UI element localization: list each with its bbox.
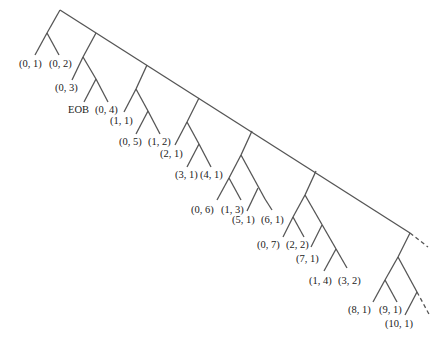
leaf-label-0-3: (0, 3) bbox=[55, 82, 78, 94]
leaf-label-9-1: (9, 1) bbox=[379, 304, 402, 316]
leaf-label-6-1: (6, 1) bbox=[261, 214, 284, 226]
leaf-label-2-2: (2, 2) bbox=[286, 239, 309, 251]
leaf-label-8-1: (8, 1) bbox=[348, 304, 371, 316]
leaf-label-1-1: (1, 1) bbox=[110, 115, 133, 127]
code-tree-diagram: (0, 1) (0, 2) (0, 3) EOB (0, 4) (1, 1) (… bbox=[0, 0, 442, 338]
leaf-label-1-2: (1, 2) bbox=[148, 136, 171, 148]
leaf-label-10-1: (10, 1) bbox=[385, 318, 413, 330]
leaf-label-0-5: (0, 5) bbox=[119, 136, 142, 148]
leaf-label-0-2: (0, 2) bbox=[49, 58, 72, 70]
leaf-label-2-1: (2, 1) bbox=[160, 148, 183, 160]
leaf-label-7-1: (7, 1) bbox=[296, 253, 319, 265]
subtree-continuation-dashed bbox=[417, 292, 430, 316]
leaf-label-0-6: (0, 6) bbox=[191, 204, 214, 216]
leaf-label-1-4: (1, 4) bbox=[309, 275, 332, 287]
leaf-label-3-1: (3, 1) bbox=[175, 169, 198, 181]
leaf-label-3-2: (3, 2) bbox=[338, 275, 361, 287]
leaf-label-0-7: (0, 7) bbox=[257, 239, 280, 251]
spine-continuation-dashed bbox=[410, 233, 428, 247]
leaf-label-0-1: (0, 1) bbox=[19, 58, 42, 70]
subtree-5 bbox=[217, 131, 272, 211]
subtree-1 bbox=[35, 10, 60, 55]
leaf-label-4-1: (4, 1) bbox=[200, 169, 223, 181]
leaf-label-eob: EOB bbox=[68, 104, 89, 115]
leaf-label-5-1: (5, 1) bbox=[232, 214, 255, 226]
